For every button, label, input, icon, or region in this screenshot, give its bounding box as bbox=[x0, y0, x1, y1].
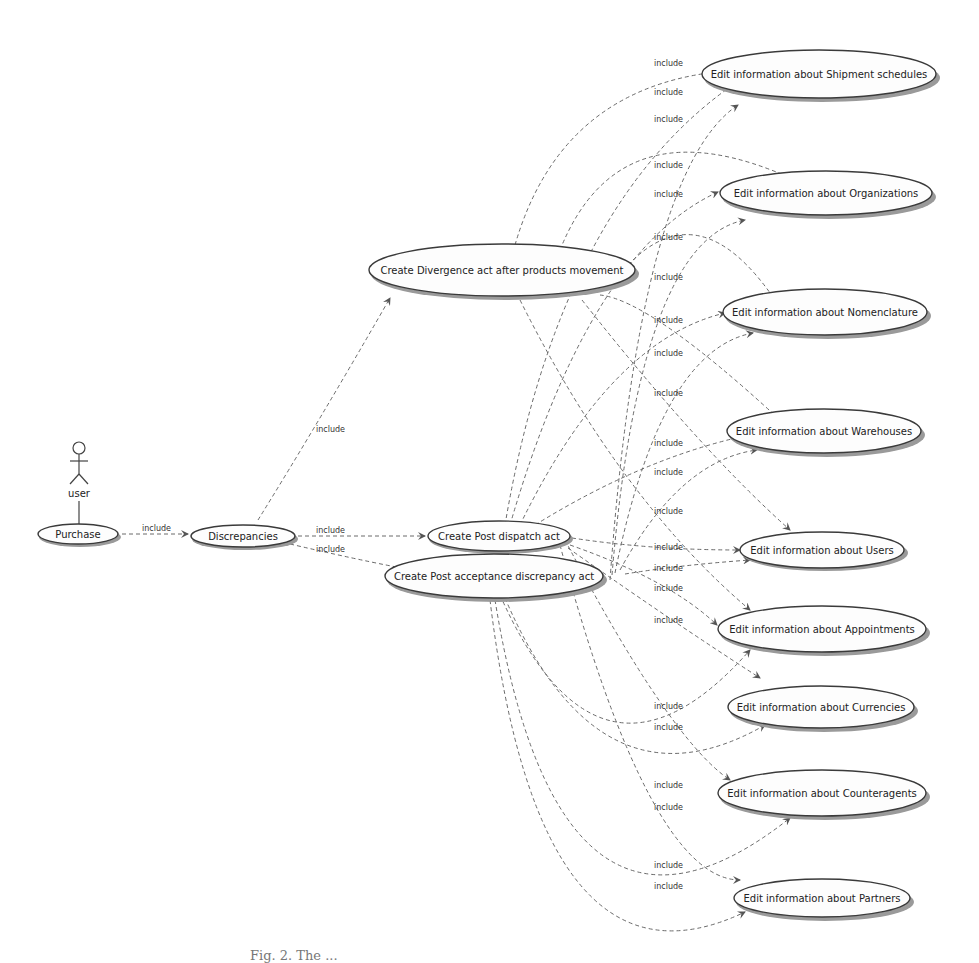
use-case-appointments[interactable]: Edit information about Appointments bbox=[718, 606, 930, 656]
svg-text:Edit information about Appoint: Edit information about Appointments bbox=[729, 624, 915, 635]
svg-text:include: include bbox=[654, 507, 683, 516]
use-case-users[interactable]: Edit information about Users bbox=[740, 532, 908, 571]
svg-text:include: include bbox=[654, 861, 683, 870]
svg-text:include: include bbox=[654, 233, 683, 242]
svg-text:Purchase: Purchase bbox=[55, 529, 100, 540]
svg-text:include: include bbox=[654, 584, 683, 593]
use-case-partners[interactable]: Edit information about Partners bbox=[734, 879, 914, 921]
svg-text:include: include bbox=[316, 526, 345, 535]
svg-text:Discrepancies: Discrepancies bbox=[208, 531, 278, 542]
include-edges bbox=[122, 72, 795, 931]
svg-text:Edit information about Shipmen: Edit information about Shipment schedule… bbox=[711, 69, 928, 80]
svg-text:Edit information about Nomencl: Edit information about Nomenclature bbox=[732, 307, 918, 318]
svg-text:include: include bbox=[654, 316, 683, 325]
svg-text:include: include bbox=[654, 161, 683, 170]
svg-text:include: include bbox=[654, 349, 683, 358]
svg-text:include: include bbox=[654, 723, 683, 732]
svg-text:include: include bbox=[316, 545, 345, 554]
svg-text:include: include bbox=[654, 115, 683, 124]
edge-labels: include include include include include … bbox=[142, 59, 683, 891]
use-case-post-acceptance-act[interactable]: Create Post acceptance discrepancy act bbox=[385, 554, 607, 602]
use-case-organizations[interactable]: Edit information about Organizations bbox=[720, 171, 936, 219]
svg-text:include: include bbox=[654, 564, 683, 573]
use-case-counteragents[interactable]: Edit information about Counteragents bbox=[718, 770, 930, 820]
svg-text:include: include bbox=[654, 59, 683, 68]
use-case-discrepancies[interactable]: Discrepancies bbox=[191, 525, 298, 550]
svg-text:include: include bbox=[654, 88, 683, 97]
svg-text:include: include bbox=[654, 439, 683, 448]
svg-text:Create Divergence act after pr: Create Divergence act after products mov… bbox=[380, 265, 623, 276]
use-case-divergence-act[interactable]: Create Divergence act after products mov… bbox=[369, 244, 639, 300]
use-case-shipment-schedules[interactable]: Edit information about Shipment schedule… bbox=[702, 50, 940, 102]
actor-head-icon bbox=[73, 442, 85, 454]
svg-text:Edit information about Counter: Edit information about Counteragents bbox=[727, 788, 917, 799]
actor-user[interactable]: user bbox=[68, 442, 91, 524]
use-case-diagram: include include include include include … bbox=[0, 0, 979, 963]
use-case-post-dispatch-act[interactable]: Create Post dispatch act bbox=[428, 521, 573, 554]
svg-text:include: include bbox=[654, 616, 683, 625]
svg-text:Edit information about Organiz: Edit information about Organizations bbox=[734, 188, 919, 199]
svg-text:Create Post dispatch act: Create Post dispatch act bbox=[438, 531, 560, 542]
svg-text:include: include bbox=[654, 273, 683, 282]
svg-text:include: include bbox=[654, 190, 683, 199]
svg-text:Edit information about Currenc: Edit information about Currencies bbox=[737, 702, 906, 713]
svg-text:Edit information about Partner: Edit information about Partners bbox=[743, 893, 900, 904]
svg-text:include: include bbox=[654, 882, 683, 891]
use-case-currencies[interactable]: Edit information about Currencies bbox=[728, 686, 918, 732]
figure-caption: Fig. 2. The ... bbox=[250, 948, 338, 963]
svg-text:include: include bbox=[654, 468, 683, 477]
svg-text:Edit information about Warehou: Edit information about Warehouses bbox=[736, 426, 912, 437]
svg-text:Create Post acceptance discrep: Create Post acceptance discrepancy act bbox=[394, 571, 594, 582]
svg-text:include: include bbox=[142, 524, 171, 533]
use-case-warehouses[interactable]: Edit information about Warehouses bbox=[727, 409, 925, 457]
svg-text:include: include bbox=[654, 543, 683, 552]
svg-text:Edit information about Users: Edit information about Users bbox=[750, 545, 893, 556]
use-case-purchase[interactable]: Purchase bbox=[38, 524, 121, 547]
svg-text:include: include bbox=[654, 389, 683, 398]
svg-text:include: include bbox=[654, 781, 683, 790]
svg-text:include: include bbox=[654, 803, 683, 812]
svg-text:include: include bbox=[316, 425, 345, 434]
use-case-nomenclature[interactable]: Edit information about Nomenclature bbox=[723, 289, 931, 339]
svg-text:include: include bbox=[654, 702, 683, 711]
actor-label: user bbox=[68, 488, 91, 499]
